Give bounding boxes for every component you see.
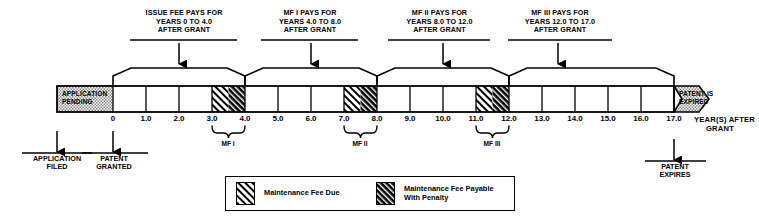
tick-label-14: 14.0 [558,114,592,124]
tick-label-9: 9.0 [393,114,427,124]
tick-label-6: 6.0 [294,114,328,124]
tick-label-12: 12.0 [492,114,526,124]
legend-label-maintenance-fee-due: Maintenance Fee Due [264,189,340,198]
tick-label-15: 15.0 [591,114,625,124]
mf-bracket-1 [212,126,245,138]
patent-expired-label-line2: EXPIRED [679,98,713,106]
mf-label-2: MF II [340,140,380,148]
legend: Maintenance Fee Due Maintenance Fee Paya… [225,176,515,211]
legend-swatch-maintenance-fee-due [236,182,255,205]
mf-bracket-2 [344,126,377,138]
mf-1-due-block [212,86,229,112]
tick-label-16: 16.0 [624,114,658,124]
span-bracket-mf-2 [377,68,509,86]
tick-label-5: 5.0 [261,114,295,124]
patent-expired-label: PATENT IS EXPIRED [679,90,713,106]
callout-issue-fee: ISSUE FEE PAYS FOR YEARS 0 TO 4.0 AFTER … [129,9,239,35]
callout-issue-fee-line3: AFTER GRANT [129,26,239,35]
event-label-patent-expires-line2: EXPIRES [630,171,720,179]
application-pending-label: APPLICATION PENDING [62,90,107,106]
tick-label-0: 0 [96,114,130,124]
tick-label-7: 7.0 [327,114,361,124]
application-pending-label-line2: PENDING [62,98,107,106]
legend-swatch-maintenance-fee-penalty [376,182,395,205]
axis-label: YEAR(S) AFTER GRANT [694,115,759,133]
callout-mf-2-line3: AFTER GRANT [388,26,491,35]
legend-item-maintenance-fee-penalty: Maintenance Fee Payable With Penalty [376,183,494,204]
tick-label-8: 8.0 [360,114,394,124]
mf-2-penalty-block [361,86,378,112]
mf-label-3: MF III [472,140,512,148]
span-brackets [113,68,674,86]
tick-label-1: 1.0 [129,114,163,124]
mf-1-penalty-block [229,86,246,112]
patent-expired-label-line1: PATENT IS [679,90,713,98]
mf-3-due-block [476,86,493,112]
callout-mf-3-line3: AFTER GRANT [507,26,613,35]
callout-mf-1-line3: AFTER GRANT [260,26,360,35]
mf-label-1: MF I [208,140,248,148]
span-bracket-issue-fee [113,68,245,86]
axis-label-line1: YEAR(S) AFTER [694,115,759,124]
tick-label-17: 17.0 [657,114,691,124]
legend-item-maintenance-fee-due: Maintenance Fee Due [236,183,340,204]
callout-mf-1: MF I PAYS FOR YEARS 4.0 TO 8.0 AFTER GRA… [260,9,360,35]
timeline-bar [57,86,709,112]
span-bracket-mf-1 [245,68,377,86]
application-pending-label-line1: APPLICATION [62,90,107,98]
tick-label-4: 4.0 [228,114,262,124]
event-label-patent-granted: PATENT GRANTED [69,155,159,172]
mf-3-penalty-block [493,86,510,112]
event-label-patent-granted-line2: GRANTED [69,163,159,171]
callout-mf-2: MF II PAYS FOR YEARS 8.0 TO 12.0 AFTER G… [388,9,491,35]
legend-label-maintenance-fee-penalty-line2: With Penalty [404,194,494,203]
span-bracket-mf-3 [509,68,674,86]
tick-label-10: 10.0 [426,114,460,124]
axis-label-line2: GRANT [706,124,759,133]
legend-label-maintenance-fee-due-line1: Maintenance Fee Due [264,189,340,198]
tick-label-11: 11.0 [459,114,493,124]
mf-2-due-block [344,86,361,112]
tick-label-2: 2.0 [162,114,196,124]
tick-label-13: 13.0 [525,114,559,124]
legend-label-maintenance-fee-penalty: Maintenance Fee Payable With Penalty [404,185,494,203]
mf-brackets [212,126,509,138]
event-label-patent-expires: PATENT EXPIRES [630,163,720,180]
callout-mf-3: MF III PAYS FOR YEARS 12.0 TO 17.0 AFTER… [507,9,613,35]
mf-bracket-3 [476,126,509,138]
tick-label-3: 3.0 [195,114,229,124]
callout-arrows [179,43,558,64]
